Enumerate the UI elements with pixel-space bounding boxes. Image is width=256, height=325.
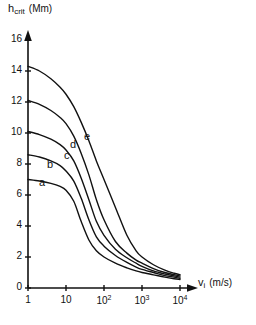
- x-axis-title-subscript: i: [204, 281, 206, 290]
- y-axis-tick-label: 14: [2, 64, 22, 75]
- curve-d: [28, 100, 180, 275]
- y-axis-tick-label: 2: [2, 250, 22, 261]
- y-axis-title: hcrit(Mm): [8, 2, 52, 16]
- curve-label-c: c: [64, 149, 70, 161]
- x-axis-title: vi(m/s): [198, 276, 232, 290]
- curve-label-e: e: [84, 130, 90, 142]
- y-axis-tick-label: 0: [2, 281, 22, 292]
- y-axis-tick-label: 12: [2, 95, 22, 106]
- y-axis-tick-label: 10: [2, 126, 22, 137]
- y-axis-tick-label: 8: [2, 157, 22, 168]
- curve-a: [28, 180, 180, 280]
- y-axis-title-unit: (Mm): [29, 3, 52, 14]
- x-axis-tick-label: 103: [128, 294, 156, 306]
- curve-label-b: b: [47, 158, 53, 170]
- curve-b: [28, 155, 180, 279]
- x-axis-title-unit: (m/s): [209, 277, 232, 288]
- y-axis-tick-label: 6: [2, 188, 22, 199]
- chart-figure: hcrit(Mm) vi(m/s) 0246810121416 11010210…: [0, 0, 256, 325]
- y-axis-tick-label: 4: [2, 219, 22, 230]
- x-axis-tick-label: 102: [90, 294, 118, 306]
- y-axis-tick-label: 16: [2, 33, 22, 44]
- data-curves: [28, 66, 180, 279]
- x-axis-arrow-icon: [187, 284, 198, 291]
- x-axis-tick-label: 10: [52, 294, 80, 305]
- y-axis-title-subscript: crit: [14, 7, 25, 16]
- curve-e: [28, 66, 180, 274]
- curve-c: [28, 131, 180, 277]
- curve-label-d: d: [70, 138, 76, 150]
- curve-label-a: a: [39, 176, 45, 188]
- x-axis-tick-label: 104: [166, 294, 194, 306]
- x-axis-tick-label: 1: [14, 294, 42, 305]
